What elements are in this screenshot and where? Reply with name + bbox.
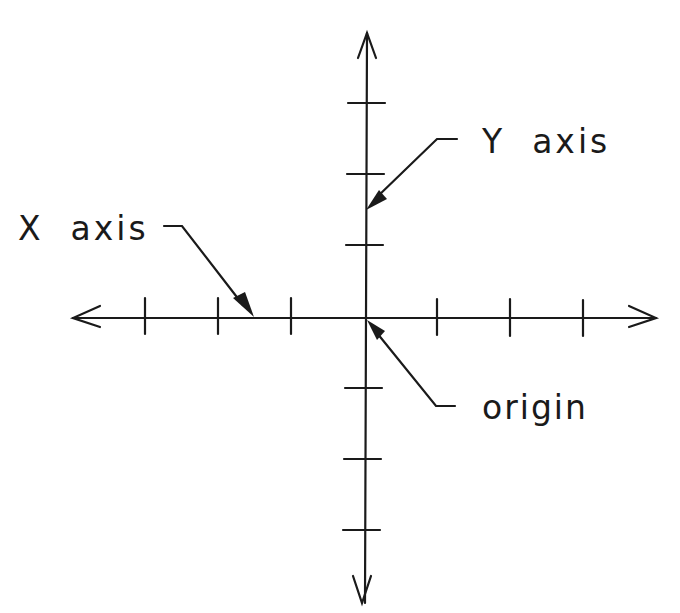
y-axis-leader-line bbox=[376, 139, 457, 198]
y-axis-bottom-arrow-icon bbox=[353, 576, 371, 603]
y-axis-label: Y axis bbox=[482, 125, 610, 158]
x-axis-right-arrow-icon bbox=[629, 306, 656, 327]
origin-leader-line bbox=[377, 333, 455, 406]
origin-pointer-icon bbox=[367, 320, 385, 340]
y-axis-line bbox=[365, 33, 367, 603]
x-axis-label: X axis bbox=[18, 212, 149, 245]
x-axis-leader-line bbox=[164, 226, 243, 305]
y-ticks bbox=[343, 103, 385, 530]
coordinate-plane bbox=[0, 0, 680, 613]
y-axis-pointer-icon bbox=[366, 190, 387, 210]
origin-label: origin bbox=[482, 391, 588, 424]
x-axis-left-arrow-icon bbox=[73, 306, 100, 327]
